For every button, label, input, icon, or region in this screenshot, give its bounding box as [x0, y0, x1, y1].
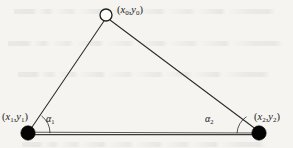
vertex-marker-right-filled-circle: [252, 126, 266, 140]
angle-label-alpha-1: α1: [46, 114, 55, 124]
vertex-label-left: (x1,y1): [2, 112, 28, 123]
vertex-label-apex-y-sub: 0: [136, 9, 140, 17]
vertex-label-right-y-sub: 2: [273, 116, 277, 124]
vertex-label-apex-x-sub: 0: [125, 9, 129, 17]
vertex-marker-apex-open-circle: [100, 9, 112, 21]
vertex-label-apex: (x0,y0): [117, 5, 143, 16]
vertex-label-right-close-paren: ): [276, 111, 280, 122]
vertex-label-right: (x2,y2): [254, 112, 280, 123]
angle-label-alpha-1-subscript: 1: [51, 118, 54, 125]
vertex-label-apex-close-paren: ): [139, 4, 143, 15]
vertex-label-left-x-sub: 1: [10, 116, 14, 124]
vertex-label-left-y-sub: 1: [21, 116, 25, 124]
angle-label-alpha-2: α2: [205, 114, 214, 124]
angle-label-alpha-2-subscript: 2: [210, 118, 213, 125]
triangle-drawing-canvas: [0, 0, 293, 148]
vertex-marker-left-filled-circle: [21, 126, 35, 140]
triangle-edge-right-leg: [110, 20, 257, 130]
triangle-edge-base-highlight: [29, 132, 258, 133]
triangle-figure: (x0,y0) (x1,y1) (x2,y2) α1 α2: [0, 0, 293, 148]
triangle-edge-left-leg: [28, 21, 104, 133]
vertex-label-right-x-sub: 2: [262, 116, 266, 124]
vertex-label-left-close-paren: ): [24, 111, 28, 122]
